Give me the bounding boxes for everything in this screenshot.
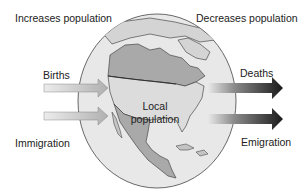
population-dynamics-diagram: Increases population Decreases populatio… — [0, 0, 302, 194]
increases-population-heading: Increases population — [15, 13, 112, 24]
emigration-label: Emigration — [241, 137, 291, 148]
local-population-line1: Local — [120, 100, 190, 113]
globe-illustration — [0, 0, 302, 194]
deaths-label: Deaths — [240, 68, 273, 79]
local-population-line2: population — [120, 113, 190, 126]
local-population-label: Local population — [120, 100, 190, 125]
immigration-label: Immigration — [15, 138, 70, 149]
decreases-population-heading: Decreases population — [196, 13, 298, 24]
births-label: Births — [43, 70, 70, 81]
births-arrow-icon — [44, 79, 108, 97]
immigration-arrow-icon — [44, 107, 108, 125]
